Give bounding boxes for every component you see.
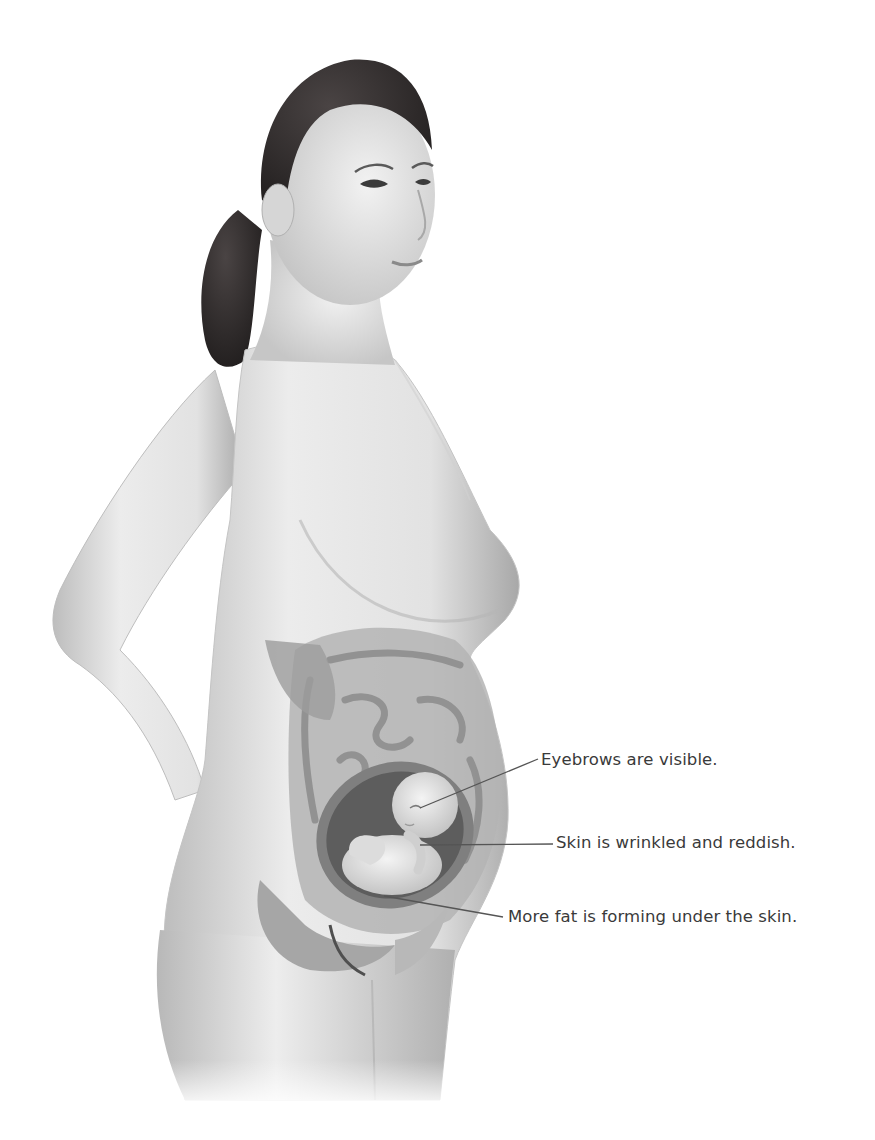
hair-ponytail [201, 210, 262, 367]
callout-eyebrows-visible: Eyebrows are visible. [541, 750, 718, 770]
pregnancy-anatomy-illustration [0, 0, 875, 1140]
callout-skin-wrinkled: Skin is wrinkled and reddish. [556, 833, 796, 853]
head [261, 60, 435, 305]
callout-fat-forming: More fat is forming under the skin. [508, 907, 797, 927]
